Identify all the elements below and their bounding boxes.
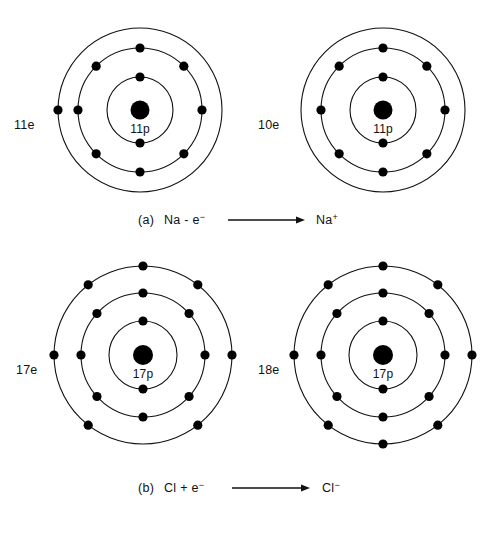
electron-shell1-1-cl-ion [378, 316, 387, 325]
electron-shell3-6-cl-ion [324, 421, 333, 430]
electron-shell2-4-cl-atom [184, 392, 193, 401]
electron-shell2-7-na-ion [316, 105, 325, 114]
electron-shell2-2-cl-atom [184, 309, 193, 318]
nucleus-na-ion [374, 101, 393, 120]
caption-b-product-text: Cl [322, 481, 334, 495]
electron-shell2-8-na-ion [335, 62, 344, 71]
electron-shell2-2-na-ion [422, 62, 431, 71]
electron-shell2-5-na-ion [378, 167, 387, 176]
electron-shell2-1-na-atom [135, 43, 144, 52]
electron-shell2-1-na-ion [378, 43, 387, 52]
nucleus-cl-atom [133, 345, 153, 365]
electron-shell2-1-cl-ion [378, 288, 387, 297]
caption-b-reactant-superscript: − [199, 480, 205, 490]
caption-a-tag: (a) [138, 213, 154, 227]
electron-shell3-5-cl-atom [84, 421, 93, 430]
electron-shell3-7-cl-atom [84, 280, 93, 289]
caption-a-reactant-text: Na - e [164, 213, 200, 227]
electron-shell2-7-cl-ion [316, 350, 325, 359]
electron-shell2-8-cl-ion [332, 309, 341, 318]
electron-shell1-1-cl-atom [138, 316, 147, 325]
electron-shell1-2-na-atom [135, 138, 144, 147]
electron-shell3-4-cl-atom [193, 421, 202, 430]
electron-shell2-8-cl-atom [92, 309, 101, 318]
electron-shell2-6-cl-atom [92, 392, 101, 401]
electron-shell2-3-cl-atom [200, 350, 209, 359]
nucleus-label-na-atom: 11p [130, 122, 150, 136]
electron-shell2-2-cl-ion [424, 309, 433, 318]
electron-shell3-3-cl-ion [467, 350, 476, 359]
electron-shell2-6-cl-ion [332, 392, 341, 401]
ion-formation-diagram: 11p 11e 11p 10e 17p 17e 17p 18e (a) Na -… [0, 0, 492, 535]
electron-count-label-na-ion: 10e [258, 118, 279, 132]
electron-shell2-7-cl-atom [76, 350, 85, 359]
electron-shell2-5-cl-atom [138, 412, 147, 421]
electron-shell2-5-na-atom [135, 167, 144, 176]
electron-shell2-3-cl-ion [440, 350, 449, 359]
caption-b-product-superscript: − [334, 480, 340, 490]
electron-shell2-3-na-atom [197, 105, 206, 114]
electron-shell1-2-cl-ion [378, 384, 387, 393]
electron-shell3-6-cl-atom [49, 350, 58, 359]
electron-shell2-5-cl-ion [378, 412, 387, 421]
caption-a-reactant: Na - e− [164, 212, 205, 227]
electron-shell2-1-cl-atom [138, 288, 147, 297]
electron-shell2-6-na-atom [92, 149, 101, 158]
nucleus-label-cl-atom: 17p [133, 367, 154, 381]
electron-shell2-6-na-ion [335, 149, 344, 158]
electron-shell1-2-na-ion [378, 138, 387, 147]
electron-shell1-2-cl-atom [138, 384, 147, 393]
electron-shell2-7-na-atom [73, 105, 82, 114]
nucleus-label-cl-ion: 17p [373, 367, 394, 381]
nucleus-cl-ion [373, 345, 393, 365]
electron-shell3-7-cl-ion [289, 350, 298, 359]
electron-shell1-1-na-ion [378, 72, 387, 81]
electron-shell3-4-cl-ion [433, 421, 442, 430]
electron-count-label-cl-atom: 17e [16, 363, 37, 377]
electron-shell2-4-na-ion [422, 149, 431, 158]
electron-shell2-4-cl-ion [424, 392, 433, 401]
nucleus-label-na-ion: 11p [373, 122, 393, 136]
electron-shell3-1-na-atom [53, 105, 62, 114]
electron-shell2-8-na-atom [92, 62, 101, 71]
caption-b-tag: (b) [138, 481, 154, 495]
electron-shell3-1-cl-atom [138, 261, 147, 270]
electron-shell2-4-na-atom [179, 149, 188, 158]
electron-shell3-5-cl-ion [378, 439, 387, 448]
caption-a-reactant-superscript: − [200, 212, 206, 222]
electron-count-label-na-atom: 11e [14, 118, 35, 132]
electron-shell2-2-na-atom [179, 62, 188, 71]
figure-background [0, 0, 492, 535]
electron-shell3-3-cl-atom [227, 350, 236, 359]
caption-b-reactant-text: Cl + e [164, 481, 199, 495]
electron-shell2-3-na-ion [440, 105, 449, 114]
caption-a-product-superscript: + [333, 212, 339, 222]
caption-b-reactant: Cl + e− [164, 480, 204, 495]
electron-shell3-8-cl-ion [324, 280, 333, 289]
electron-count-label-cl-ion: 18e [258, 363, 279, 377]
caption-a-product-text: Na [316, 213, 333, 227]
electron-shell3-2-cl-ion [433, 280, 442, 289]
electron-shell3-2-cl-atom [193, 280, 202, 289]
electron-shell1-1-na-atom [135, 72, 144, 81]
electron-shell3-1-cl-ion [378, 261, 387, 270]
nucleus-na-atom [131, 101, 150, 120]
